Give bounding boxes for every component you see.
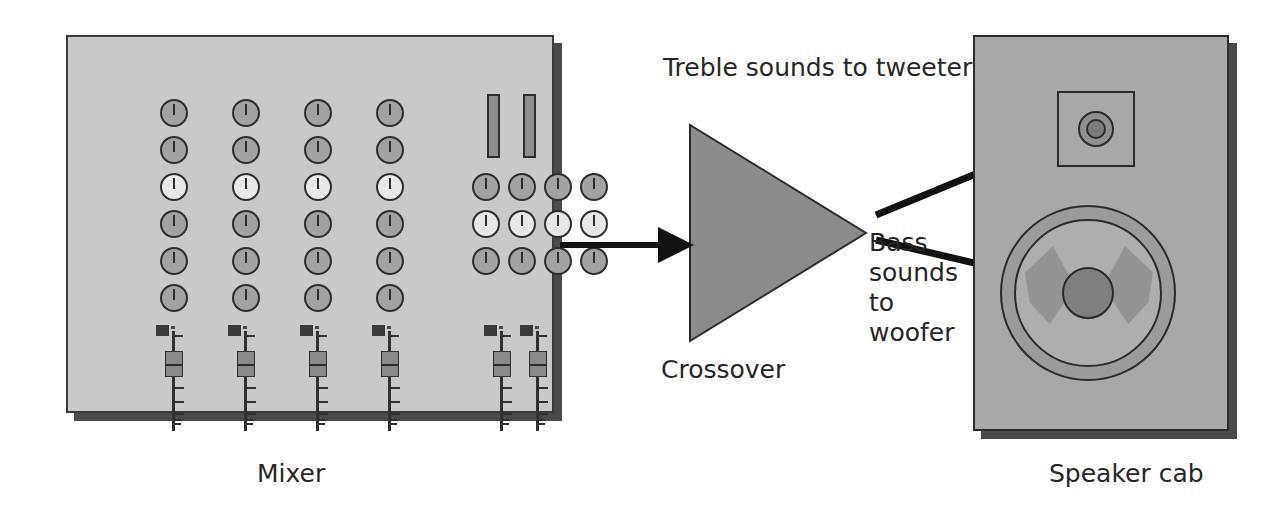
mixer-label: Mixer: [257, 459, 325, 489]
bass-label: Basssoundstowoofer: [869, 228, 979, 348]
bass-label-line-2: to: [869, 288, 979, 318]
tweeter-dome: [1086, 119, 1106, 139]
bass-label-line-0: Bass: [869, 228, 979, 258]
woofer-dust-cap: [1062, 267, 1114, 319]
crossover-label: Crossover: [661, 355, 785, 385]
diagram-canvas: Treble sounds to tweeter Crossover Basss…: [0, 0, 1288, 526]
bass-label-line-3: woofer: [869, 318, 979, 348]
bass-label-line-1: sounds: [869, 258, 979, 288]
speaker-cab-label: Speaker cab: [1049, 459, 1204, 489]
treble-label: Treble sounds to tweeter: [663, 53, 972, 83]
crossover-triangle: [690, 125, 866, 341]
